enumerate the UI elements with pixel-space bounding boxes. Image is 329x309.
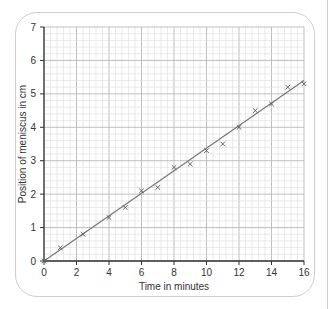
y-tick-label: 3 [30, 155, 36, 166]
scatter-chart: 0246810121416 01234567 Time in minutes P… [0, 0, 329, 309]
x-tick-label: 10 [201, 267, 213, 278]
y-tick-label: 2 [30, 189, 36, 200]
y-axis-ticks: 01234567 [30, 22, 44, 267]
chart-grid [44, 27, 304, 261]
x-marker [253, 108, 258, 113]
x-axis-title: Time in minutes [139, 281, 209, 292]
x-tick-label: 0 [41, 267, 47, 278]
x-tick-label: 2 [74, 267, 80, 278]
x-marker [220, 142, 225, 147]
x-tick-label: 14 [266, 267, 278, 278]
y-tick-label: 4 [30, 122, 36, 133]
y-tick-label: 1 [30, 222, 36, 233]
y-tick-label: 7 [30, 22, 36, 33]
x-tick-label: 8 [171, 267, 177, 278]
x-tick-label: 12 [233, 267, 245, 278]
x-tick-label: 16 [298, 267, 310, 278]
y-tick-label: 0 [30, 256, 36, 267]
y-axis-title: Position of meniscus in cm [17, 85, 28, 203]
x-tick-label: 4 [106, 267, 112, 278]
x-axis-ticks: 0246810121416 [41, 261, 310, 278]
x-tick-label: 6 [139, 267, 145, 278]
y-tick-label: 5 [30, 88, 36, 99]
y-tick-label: 6 [30, 55, 36, 66]
x-marker [188, 162, 193, 167]
